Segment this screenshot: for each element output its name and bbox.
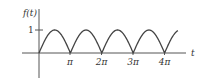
x-tick-label-3pi: 3π [127,57,140,67]
x-tick-label-4pi: 4π [158,57,172,67]
x-axis-label: t [191,48,195,58]
x-tick-label-2pi: 2π [95,57,109,67]
curve-abs-sin [39,30,178,53]
chart: f(t) 1 π 2π 3π 4π t [0,0,200,79]
y-tick-label-1: 1 [28,25,34,35]
x-tick-label-pi: π [66,57,74,67]
y-axis-label: f(t) [22,8,37,18]
